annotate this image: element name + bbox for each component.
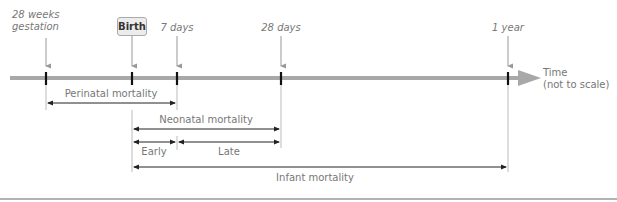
marker-label-1year: 1 year [492,22,524,34]
time-axis-label: Time (not to scale) [543,67,609,91]
birth-marker-label: Birth [117,17,147,36]
late-label: Late [218,146,240,158]
timeline-axis [10,70,541,86]
infant-label: Infant mortality [276,172,354,184]
perinatal-label: Perinatal mortality [65,88,158,100]
marker-pointers [46,36,508,66]
period-arrows [48,103,506,167]
time-axis-label-line1: Time [543,67,609,79]
marker-label-28days: 28 days [261,22,301,34]
time-axis-label-line2: (not to scale) [543,79,609,91]
early-label: Early [141,146,166,158]
timeline-arrowhead-icon [518,70,541,86]
gestation-label-line2: gestation [12,21,59,33]
neonatal-label: Neonatal mortality [159,114,253,126]
gestation-label-line1: 28 weeks [12,9,59,21]
marker-label-gestation: 28 weeks gestation [12,9,59,33]
marker-label-7days: 7 days [160,22,193,34]
